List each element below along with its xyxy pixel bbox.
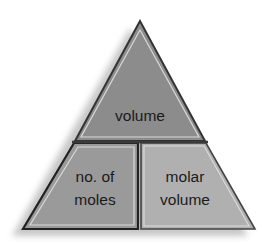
formula-triangle-diagram: volume no. of moles molar volume (0, 0, 262, 244)
bottom-right-label-line1: molar (166, 168, 205, 185)
bottom-left-label-line1: no. of (76, 168, 115, 185)
bottom-right-section (141, 143, 255, 229)
bottom-left-section (23, 143, 138, 229)
bottom-left-label-line2: moles (74, 191, 116, 208)
bottom-right-label-line2: volume (160, 191, 210, 208)
top-label: volume (115, 107, 165, 124)
